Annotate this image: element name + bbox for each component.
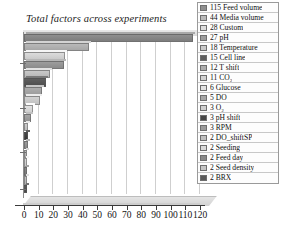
bar-top-face	[26, 139, 30, 141]
legend-item[interactable]: 15 Cell line	[198, 53, 278, 63]
legend-swatch-icon	[200, 25, 207, 31]
bar-top-face	[26, 41, 91, 43]
legend-swatch-icon	[200, 85, 207, 91]
legend-item[interactable]: 27 pH	[198, 33, 278, 43]
bar-top-face	[26, 165, 29, 167]
bar-top-face	[26, 156, 29, 158]
bar-top-face	[26, 121, 30, 123]
x-axis-line	[15, 205, 205, 206]
legend-item-label: 5 DO	[210, 93, 227, 103]
bar-top-face	[26, 50, 67, 52]
legend-swatch-icon	[200, 5, 207, 11]
legend-item-label: 6 Glucose	[210, 83, 241, 93]
bar-top-face	[26, 130, 30, 132]
chart-figure: Total factors across experiments 0102030…	[0, 0, 281, 227]
legend-swatch-icon	[200, 105, 207, 111]
legend-swatch-icon	[200, 65, 207, 71]
legend-swatch-icon	[200, 115, 207, 121]
x-tick-label: 0	[22, 210, 27, 220]
legend-item[interactable]: 5 DO	[198, 93, 278, 103]
x-tick-label: 30	[63, 210, 73, 220]
legend-item[interactable]: 2 Seeding	[198, 143, 278, 153]
legend-item-label: 115 Feed volume	[210, 3, 262, 13]
legend-item[interactable]: 115 Feed volume	[198, 3, 278, 13]
legend-item[interactable]: 2 Seed density	[198, 163, 278, 173]
legend-item-label: 3 pH shift	[210, 113, 240, 123]
bar-top-face	[26, 174, 29, 176]
legend-swatch-icon	[200, 145, 207, 151]
x-tick-label: 80	[137, 210, 147, 220]
bar-top-face	[26, 103, 35, 105]
x-tick-label: 20	[49, 210, 59, 220]
legend-item-label: 2 Seeding	[210, 143, 240, 153]
bar-top-face	[26, 183, 29, 185]
legend-item-label: 3 RPM	[210, 123, 232, 133]
legend-item[interactable]: 2 DO_shiftSP	[198, 133, 278, 143]
legend-swatch-icon	[200, 175, 207, 181]
y-tick	[20, 108, 26, 109]
legend-item[interactable]: 12 T shift	[198, 63, 278, 73]
legend-item-label: 12 T shift	[210, 63, 239, 73]
bar-top-face	[26, 59, 66, 61]
legend-item[interactable]: 3 O₂	[198, 103, 278, 113]
chart-legend[interactable]: 115 Feed volume44 Media volume28 Custom2…	[197, 2, 279, 184]
x-tick-label: 10	[34, 210, 44, 220]
bar-top-face	[26, 94, 42, 96]
x-tick-label: 90	[151, 210, 161, 220]
x-axis-tick-labels: 0102030405060708090100110120	[0, 210, 281, 224]
legend-swatch-icon	[200, 45, 207, 51]
y-tick	[20, 63, 26, 64]
legend-swatch-icon	[200, 95, 207, 101]
legend-item[interactable]: 11 CO₂	[198, 73, 278, 83]
x-tick-label: 110	[178, 210, 192, 220]
legend-swatch-icon	[200, 15, 207, 21]
legend-item-label: 44 Media volume	[210, 13, 264, 23]
x-tick-label: 100	[164, 210, 178, 220]
chart-title: Total factors across experiments	[26, 13, 167, 24]
legend-item[interactable]: 6 Glucose	[198, 83, 278, 93]
legend-item-label: 28 Custom	[210, 23, 243, 33]
legend-item[interactable]: 18 Temperature	[198, 43, 278, 53]
legend-swatch-icon	[200, 125, 207, 131]
bar-top-face	[26, 112, 33, 114]
x-tick-label: 120	[193, 210, 207, 220]
legend-item-label: 2 Seed density	[210, 163, 254, 173]
legend-item[interactable]: 3 pH shift	[198, 113, 278, 123]
legend-item[interactable]: 3 RPM	[198, 123, 278, 133]
bar-top-face	[26, 68, 52, 70]
legend-item-label: 11 CO₂	[210, 73, 232, 83]
legend-swatch-icon	[200, 155, 207, 161]
bar-top-face	[26, 148, 29, 150]
legend-item[interactable]: 44 Media volume	[198, 13, 278, 23]
bar-top-face	[26, 85, 44, 87]
legend-item[interactable]: 2 BRX	[198, 173, 278, 183]
x-tick-label: 60	[107, 210, 117, 220]
legend-item-label: 27 pH	[210, 33, 229, 43]
legend-item-label: 3 O₂	[210, 103, 224, 113]
x-tick-label: 40	[78, 210, 88, 220]
legend-swatch-icon	[200, 35, 207, 41]
legend-item-label: 2 Feed day	[210, 153, 243, 163]
bar-series	[24, 34, 199, 194]
legend-item-label: 18 Temperature	[210, 43, 258, 53]
legend-item[interactable]: 2 Feed day	[198, 153, 278, 163]
legend-swatch-icon	[200, 165, 207, 171]
x-tick-label: 50	[93, 210, 103, 220]
y-tick	[20, 152, 26, 153]
legend-swatch-icon	[200, 135, 207, 141]
legend-swatch-icon	[200, 75, 207, 81]
legend-item-label: 2 BRX	[210, 173, 231, 183]
bar-top-face	[26, 76, 48, 78]
x-tick-label: 70	[122, 210, 132, 220]
legend-item-label: 2 DO_shiftSP	[210, 133, 252, 143]
y-tick	[20, 189, 26, 190]
legend-item[interactable]: 28 Custom	[198, 23, 278, 33]
legend-swatch-icon	[200, 55, 207, 61]
plot-area	[23, 30, 199, 202]
bar-top-face	[26, 32, 195, 34]
legend-item-label: 15 Cell line	[210, 53, 245, 63]
